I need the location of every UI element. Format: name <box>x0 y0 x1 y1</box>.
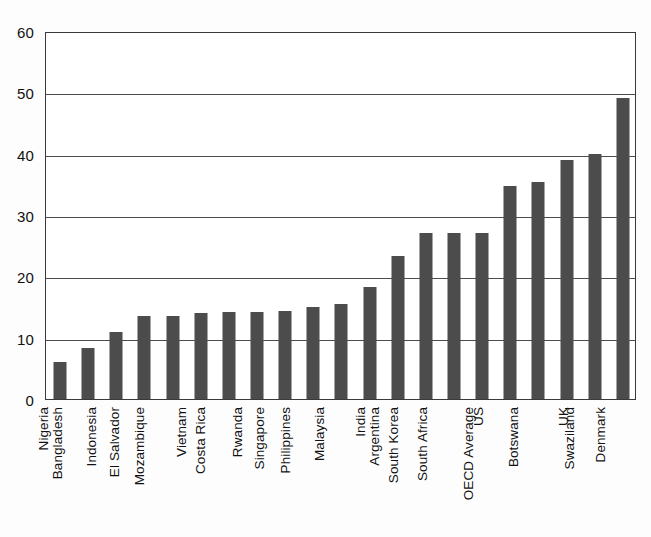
y-tick-label: 30 <box>17 209 34 224</box>
x-tick: Denmark <box>608 401 636 533</box>
x-tick-label: Rwanda <box>231 407 245 457</box>
x-tick-label: OECD Average <box>463 407 477 500</box>
y-tick-label: 50 <box>17 86 34 101</box>
bar[interactable] <box>363 287 376 399</box>
x-tick-label: Swaziland <box>563 407 577 469</box>
x-tick-label: Costa Rica <box>194 407 208 474</box>
x-tick-label: Argentina <box>367 407 381 466</box>
bar[interactable] <box>560 160 573 399</box>
bar-slot <box>384 33 412 399</box>
x-tick-label: South Africa <box>416 407 430 481</box>
bar-slot <box>74 33 102 399</box>
bar[interactable] <box>194 313 207 399</box>
bar[interactable] <box>222 312 235 399</box>
bar-slot <box>581 33 609 399</box>
bar-slot <box>609 33 637 399</box>
bar-slot <box>496 33 524 399</box>
y-tick-label: 60 <box>17 25 34 40</box>
bar-chart: 0102030405060 NigeriaBangladeshIndonesia… <box>0 0 651 537</box>
bar-slot <box>102 33 130 399</box>
bar-slot <box>327 33 355 399</box>
x-tick-label: Denmark <box>594 407 608 462</box>
bar-slot <box>187 33 215 399</box>
x-axis: NigeriaBangladeshIndonesiaEl SalvadorMoz… <box>45 401 636 537</box>
x-tick-label: Vietnam <box>175 407 189 457</box>
bar[interactable] <box>504 186 517 399</box>
bar-slot <box>356 33 384 399</box>
x-tick-label: Nigeria <box>37 407 51 450</box>
y-tick-label: 40 <box>17 147 34 162</box>
bar[interactable] <box>588 154 601 399</box>
y-tick-label: 0 <box>25 393 34 408</box>
plot-area <box>45 32 636 400</box>
bar-slot <box>440 33 468 399</box>
bar-slot <box>46 33 74 399</box>
y-axis: 0102030405060 <box>0 0 42 537</box>
x-tick-label: Indonesia <box>86 407 100 466</box>
x-tick: Malaysia <box>326 401 354 533</box>
bars-series <box>46 33 635 399</box>
bar[interactable] <box>532 182 545 399</box>
bar-slot <box>412 33 440 399</box>
bar[interactable] <box>419 233 432 399</box>
x-tick-label: Singapore <box>253 407 267 469</box>
bar[interactable] <box>307 307 320 399</box>
bar[interactable] <box>616 98 629 399</box>
x-tick-label: South Korea <box>387 407 401 483</box>
x-tick-label: Bangladesh <box>51 407 65 479</box>
bar-slot <box>243 33 271 399</box>
bar[interactable] <box>138 316 151 399</box>
bar-slot <box>468 33 496 399</box>
x-tick-label: Philippines <box>279 407 293 473</box>
x-tick-label: India <box>354 407 368 437</box>
bar[interactable] <box>251 312 264 399</box>
bar-slot <box>299 33 327 399</box>
bar[interactable] <box>335 304 348 399</box>
bar[interactable] <box>476 233 489 399</box>
bar-slot <box>215 33 243 399</box>
bar[interactable] <box>448 233 461 399</box>
bar-slot <box>524 33 552 399</box>
y-tick-label: 20 <box>17 270 34 285</box>
bar[interactable] <box>391 256 404 399</box>
bar[interactable] <box>110 332 123 399</box>
x-tick-label: Malaysia <box>313 407 327 461</box>
bar-slot <box>271 33 299 399</box>
bar-slot <box>159 33 187 399</box>
x-tick: Botswana <box>523 401 551 533</box>
y-tick-label: 10 <box>17 331 34 346</box>
bar[interactable] <box>82 348 95 399</box>
bar[interactable] <box>54 362 67 399</box>
bar[interactable] <box>166 316 179 399</box>
bar-slot <box>553 33 581 399</box>
x-tick-label: El Salvador <box>108 407 122 477</box>
x-tick-label: Botswana <box>507 407 521 467</box>
bar-slot <box>130 33 158 399</box>
bar[interactable] <box>279 311 292 399</box>
x-tick-label: Mozambique <box>132 407 146 485</box>
